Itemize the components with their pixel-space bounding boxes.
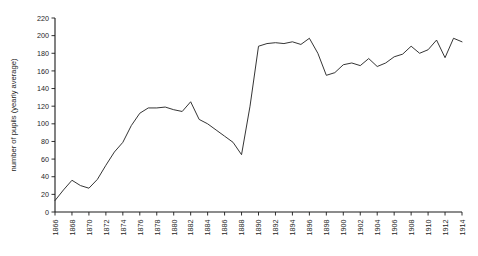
x-tick-label: 1868 [68, 220, 77, 236]
x-tick-label: 1900 [339, 220, 348, 236]
y-tick-label: 100 [37, 119, 49, 128]
y-tick-label: 60 [41, 155, 49, 164]
y-tick-label: 200 [37, 31, 49, 40]
x-tick-label: 1872 [102, 220, 111, 236]
x-tick-label: 1878 [153, 220, 162, 236]
x-tick-label: 1880 [170, 220, 179, 236]
y-tick-label: 180 [37, 49, 49, 58]
y-tick-label: 20 [41, 190, 49, 199]
x-tick-label: 1912 [441, 220, 450, 236]
x-tick-label: 1898 [322, 220, 331, 236]
chart-container: 0204060801001201401601802002201866186818… [0, 0, 478, 256]
x-tick-label: 1910 [424, 220, 433, 236]
x-tick-label: 1914 [458, 220, 467, 236]
x-tick-label: 1886 [220, 220, 229, 236]
y-tick-label: 80 [41, 137, 49, 146]
x-tick-label: 1906 [390, 220, 399, 236]
series-line-number-of-pupils [55, 38, 462, 200]
x-tick-label: 1874 [119, 220, 128, 236]
y-axis-title: number of pupils (yearly average) [9, 58, 18, 172]
y-tick-label: 40 [41, 172, 49, 181]
y-tick-label: 0 [45, 208, 49, 217]
x-tick-label: 1870 [85, 220, 94, 236]
line-chart: 0204060801001201401601802002201866186818… [0, 0, 478, 256]
y-tick-label: 120 [37, 102, 49, 111]
x-tick-label: 1908 [407, 220, 416, 236]
y-tick-label: 220 [37, 14, 49, 23]
x-tick-label: 1902 [356, 220, 365, 236]
x-tick-label: 1884 [203, 220, 212, 236]
x-tick-label: 1896 [305, 220, 314, 236]
x-tick-label: 1890 [254, 220, 263, 236]
x-tick-label: 1866 [51, 220, 60, 236]
y-tick-label: 140 [37, 84, 49, 93]
y-tick-label: 160 [37, 67, 49, 76]
x-tick-label: 1882 [186, 220, 195, 236]
x-tick-label: 1876 [136, 220, 145, 236]
x-tick-label: 1894 [288, 220, 297, 236]
x-tick-label: 1904 [373, 220, 382, 236]
x-tick-label: 1892 [271, 220, 280, 236]
x-tick-label: 1888 [237, 220, 246, 236]
